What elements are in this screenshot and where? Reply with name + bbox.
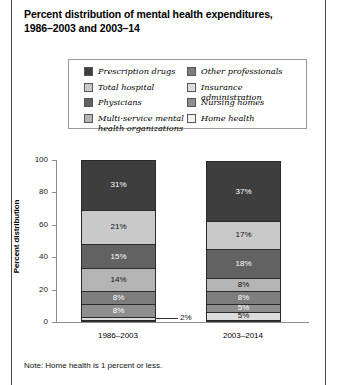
bar-segment-label: 31% — [110, 181, 126, 189]
bar-segment: 8% — [81, 291, 156, 304]
bar-segment: 17% — [206, 221, 281, 249]
y-tick-mark — [52, 290, 56, 291]
y-tick-label: 40 — [8, 253, 48, 261]
plot-area: Percent distribution 020406080100 2%8%8%… — [0, 0, 337, 385]
y-axis-line — [56, 160, 57, 323]
figure-note: Note: Home health is 1 percent or less. — [24, 361, 162, 371]
bar-segment: 18% — [206, 249, 281, 278]
bar-segment: 8% — [81, 304, 156, 317]
callout-label-2-percent: 2% — [180, 314, 192, 322]
bar-segment: 8% — [206, 291, 281, 304]
bar-segment: 5% — [206, 312, 281, 320]
y-tick-mark — [52, 192, 56, 193]
bar-segment-label: 8% — [238, 281, 250, 289]
bar-segment-label: 37% — [235, 188, 251, 196]
category-label-1986-2003: 1986–2003 — [63, 331, 173, 340]
y-tick-label: 60 — [8, 221, 48, 229]
stacked-bar-2003-2014: 0%5%5%8%8%18%17%37% — [206, 161, 281, 322]
bar-segment-label: 17% — [235, 231, 251, 239]
bar-segment: 31% — [81, 160, 156, 210]
bar-segment: 8% — [206, 278, 281, 291]
y-tick-label: 20 — [8, 286, 48, 294]
y-tick-mark — [52, 160, 56, 161]
figure-container: Percent distribution of mental health ex… — [0, 0, 337, 385]
bar-segment: 15% — [81, 244, 156, 268]
bar-segment: 5% — [206, 304, 281, 312]
bar-segment-label: 8% — [113, 307, 125, 315]
x-axis-line — [56, 322, 309, 323]
y-tick-label: 80 — [8, 188, 48, 196]
category-label-2003-2014: 2003–2014 — [188, 331, 298, 340]
y-tick-label: 0 — [8, 318, 48, 326]
stacked-bar-1986-2003: 2%8%8%14%15%21%31% — [81, 160, 156, 322]
callout-leader-line — [156, 318, 178, 319]
bar-segment-label: 21% — [110, 223, 126, 231]
y-tick-label: 100 — [8, 156, 48, 164]
bar-segment-label: 5% — [238, 312, 250, 320]
bar-segment-label: 8% — [113, 294, 125, 302]
bar-segment-label: 15% — [110, 253, 126, 261]
bar-segment: 37% — [206, 161, 281, 221]
bar-segment: 14% — [81, 268, 156, 291]
bar-segment: 21% — [81, 210, 156, 244]
y-tick-mark — [52, 225, 56, 226]
y-tick-mark — [52, 257, 56, 258]
bar-segment: 2% — [81, 317, 156, 320]
bar-segment-label: 0% — [238, 320, 250, 322]
bar-segment: 0% — [206, 320, 281, 322]
bar-segment-label: 5% — [238, 304, 250, 312]
bar-segment — [81, 320, 156, 322]
bar-segment-label: 14% — [110, 276, 126, 284]
y-tick-mark — [52, 322, 56, 323]
bar-segment-label: 18% — [235, 260, 251, 268]
bar-segment-label: 8% — [238, 294, 250, 302]
